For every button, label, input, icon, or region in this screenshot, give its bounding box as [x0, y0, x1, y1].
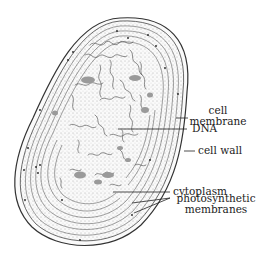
cell-diagram [0, 0, 265, 254]
label-dna: DNA [192, 123, 217, 134]
label-photosynthetic-membranes: photosynthetic membranes [170, 193, 262, 215]
cell-body [15, 18, 188, 246]
label-cell-wall: cell wall [198, 145, 242, 156]
label-photosynthetic-line2: membranes [170, 204, 262, 215]
